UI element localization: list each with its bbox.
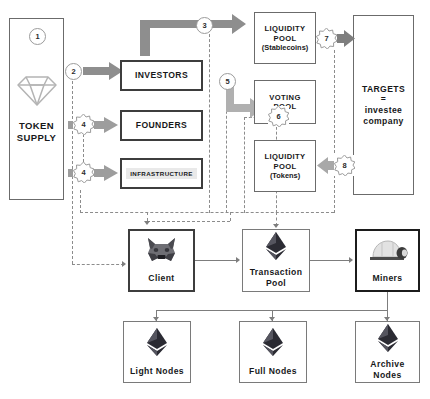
block-arrow-step7 (336, 30, 355, 47)
node-client[interactable]: Client (128, 229, 195, 292)
arrowhead-to-client (122, 261, 126, 267)
diagram-canvas: TOKEN SUPPLY 1 2 3 INVESTORS FOUNDERS IN… (0, 0, 430, 399)
node-liquidity-pool-stablecoins[interactable]: LIQUIDITY POOL (Stablecoins) (254, 12, 316, 64)
step-badge-8-number: 8 (342, 161, 346, 170)
line-miners-down (387, 292, 388, 310)
diamond-icon (15, 74, 59, 112)
node-targets-label-2: = (381, 94, 386, 105)
lp-stable-label-2: POOL (273, 34, 296, 43)
lp-tokens-label-2: POOL (273, 162, 296, 171)
node-liquidity-pool-tokens[interactable]: LIQUIDITY POOL (Tokens) (254, 140, 316, 192)
arrowhead-client-top (144, 221, 150, 225)
arrowhead-miners-in (349, 257, 353, 263)
step-badge-7-number: 7 (324, 34, 328, 43)
node-token-supply[interactable]: TOKEN SUPPLY (9, 18, 64, 200)
lp-stable-label-1: LIQUIDITY (264, 24, 305, 33)
step-badge-5-value: 5 (225, 77, 229, 86)
dashed-line-client-top-riser (230, 212, 231, 221)
node-full-nodes[interactable]: Full Nodes (239, 321, 307, 383)
step-badge-2[interactable]: 2 (65, 63, 82, 80)
step-badge-3-number: 3 (202, 21, 206, 30)
dashed-line-step7-riser (334, 40, 335, 213)
step-badge-4b[interactable]: 4 (73, 162, 94, 183)
step-badge-4a-number: 4 (81, 120, 85, 129)
node-transaction-pool-label-2: Pool (266, 278, 286, 289)
lp-tokens-label-1: LIQUIDITY (264, 152, 305, 161)
ethereum-icon (263, 328, 283, 360)
lp-tokens-label-3: (Tokens) (270, 171, 300, 180)
dashed-line-to-client (72, 264, 124, 265)
node-archive-nodes-label-1: Archive (370, 359, 404, 370)
step-badge-3[interactable]: 3 (196, 17, 213, 34)
node-light-nodes[interactable]: Light Nodes (123, 321, 191, 383)
step-badge-8[interactable]: 8 (334, 155, 355, 176)
step-badge-2-number: 2 (71, 67, 75, 76)
node-targets-label-4: company (363, 116, 404, 127)
step-badge-4b-number: 4 (81, 168, 85, 177)
dashed-line-client-top-run (147, 221, 230, 222)
node-token-supply-label-2: SUPPLY (17, 132, 57, 144)
step-badge-4a[interactable]: 4 (73, 114, 94, 135)
metamask-fox-icon (146, 237, 177, 269)
node-miners-label: Miners (372, 273, 402, 284)
dashed-line-step6-drop (244, 117, 245, 213)
node-investors-label: INVESTORS (135, 70, 188, 81)
node-infrastructure[interactable]: INFRASTRUCTURE (120, 158, 203, 189)
node-founders[interactable]: FOUNDERS (120, 110, 203, 141)
block-arrow-to-investors (83, 62, 123, 80)
node-archive-nodes-label-2: Nodes (373, 370, 401, 381)
ethereum-icon (147, 328, 167, 360)
node-client-label: Client (148, 273, 174, 284)
step-badge-6-number: 6 (276, 112, 280, 121)
step-badge-7[interactable]: 7 (316, 28, 337, 49)
node-full-nodes-label: Full Nodes (249, 366, 297, 377)
node-targets[interactable]: TARGETS = investee company (353, 15, 414, 195)
arrowhead-txpool-top (273, 224, 279, 228)
node-targets-label-1: TARGETS (362, 84, 405, 95)
line-client-to-txpool (195, 260, 238, 261)
node-founders-label: FOUNDERS (136, 120, 187, 131)
arrowhead-txpool-in (236, 257, 240, 263)
ethereum-icon (266, 232, 286, 264)
node-token-supply-label-1: TOKEN (19, 120, 54, 132)
node-infrastructure-label: INFRASTRUCTURE (126, 168, 197, 180)
lp-stable-label-3: (Stablecoins) (262, 43, 308, 52)
step-badge-1[interactable]: 1 (29, 28, 46, 45)
node-transaction-pool[interactable]: Transaction Pool (242, 229, 310, 292)
ethereum-icon (378, 324, 398, 356)
line-txpool-to-miners (310, 260, 351, 261)
step-badge-5[interactable]: 4 5 (219, 73, 236, 90)
node-light-nodes-label: Light Nodes (130, 366, 184, 377)
node-investors[interactable]: INVESTORS (120, 60, 203, 91)
dashed-line-client-drop (147, 212, 148, 221)
node-miners[interactable]: Miners (355, 229, 420, 292)
node-archive-nodes[interactable]: Archive Nodes (355, 321, 420, 383)
mining-helmet-icon (368, 238, 408, 270)
node-targets-label-3: investee (365, 105, 403, 116)
node-transaction-pool-label-1: Transaction (250, 267, 303, 278)
dashed-bus-line (80, 212, 334, 213)
block-arrow-step3-elbow (138, 14, 246, 56)
dashed-bus-left-riser (80, 190, 81, 213)
voting-pool-label-1: VOTING (269, 93, 301, 102)
step-badge-6[interactable]: 6 (268, 106, 289, 127)
step-badge-1-number: 1 (35, 32, 39, 41)
